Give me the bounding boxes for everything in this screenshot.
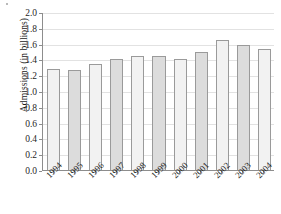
bar-fill <box>238 46 249 170</box>
bar <box>110 59 123 170</box>
bar-chart: Admissions (in billions) 0.00.20.40.60.8… <box>0 0 281 214</box>
bar <box>258 49 271 170</box>
bar <box>47 69 60 170</box>
bar-fill <box>196 53 207 170</box>
y-axis-tick-label: 0.8 <box>25 103 37 113</box>
bar <box>174 59 187 170</box>
bar <box>195 52 208 170</box>
x-axis-tick-labels: 1994199519961997199819992000200120022003… <box>42 173 274 214</box>
bar <box>68 70 81 170</box>
y-axis-tick-label: 1.4 <box>25 55 37 65</box>
bar-fill <box>132 57 143 170</box>
bar <box>131 56 144 170</box>
bar-fill <box>259 50 270 170</box>
bar <box>152 56 165 170</box>
bar-fill <box>175 60 186 170</box>
bar-fill <box>217 41 228 170</box>
bar-fill <box>153 57 164 170</box>
y-axis-tick-label: 0.2 <box>25 150 37 160</box>
y-axis-tick-labels: 0.00.20.40.60.81.01.21.41.61.82.0 <box>0 0 42 214</box>
y-axis-tick-label: 1.6 <box>25 40 37 50</box>
y-axis-tick-mark <box>39 171 42 172</box>
y-axis-tick-label: 1.2 <box>25 71 37 81</box>
bar-fill <box>48 70 59 170</box>
y-axis-tick-label: 1.8 <box>25 24 37 34</box>
bar-series <box>43 13 274 170</box>
bar-fill <box>69 71 80 170</box>
y-axis-tick-label: 0.0 <box>25 166 37 176</box>
bar <box>89 64 102 170</box>
y-axis-tick-label: 1.0 <box>25 87 37 97</box>
bar <box>237 45 250 170</box>
bar-fill <box>111 60 122 170</box>
plot-area <box>42 13 274 171</box>
y-axis-tick-label: 0.6 <box>25 119 37 129</box>
bar <box>216 40 229 170</box>
y-axis-tick-label: 2.0 <box>25 8 37 18</box>
bar-fill <box>90 65 101 170</box>
y-axis-tick-label: 0.4 <box>25 134 37 144</box>
